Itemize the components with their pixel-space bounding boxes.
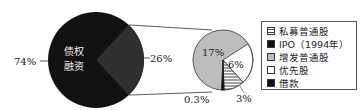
black-swatch-icon <box>267 79 275 87</box>
sub-pie <box>193 30 253 90</box>
label-leader-3 <box>240 86 244 93</box>
label-74-percent: 74% <box>14 56 36 67</box>
black-swatch-icon <box>267 40 275 48</box>
legend-item-ipo: IPO（1994年） <box>267 37 356 50</box>
gray-swatch-icon <box>267 53 275 61</box>
legend-item-loan: 借款 <box>267 76 356 89</box>
stripe-swatch-icon <box>267 27 275 35</box>
white-swatch-icon <box>267 66 275 74</box>
label-26-percent: 26% <box>150 53 172 64</box>
label-3-percent: 3% <box>236 93 252 104</box>
main-pie-center-label-line2: 融资 <box>64 61 84 72</box>
label-6-percent: 6% <box>228 59 244 70</box>
legend-item-equity-offering: 增发普通股 <box>267 50 356 63</box>
main-pie-center-label-line1: 债权 <box>64 45 84 57</box>
legend: 私募普通股 IPO（1994年） 增发普通股 优先股 借款 <box>261 21 357 90</box>
legend-item-preferred: 优先股 <box>267 63 356 76</box>
label-0-3-percent: 0.3% <box>184 94 209 105</box>
connector-line-top <box>129 25 212 30</box>
label-17-percent: 17% <box>202 47 224 58</box>
main-pie <box>48 12 144 108</box>
legend-item-private: 私募普通股 <box>267 24 356 37</box>
